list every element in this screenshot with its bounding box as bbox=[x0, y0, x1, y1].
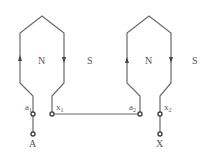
arrow-down-icon bbox=[169, 57, 173, 63]
terminal-x1[interactable] bbox=[50, 112, 54, 116]
pole-label-s: S bbox=[192, 55, 198, 66]
arrow-up-icon bbox=[18, 55, 22, 61]
terminal-a1[interactable] bbox=[31, 112, 35, 116]
winding-diagram: N S a1 x1 A N S a2 x2 X bbox=[0, 0, 201, 162]
terminal-label-X: X bbox=[156, 138, 164, 149]
coil-2: N S a2 x2 X bbox=[125, 16, 198, 149]
pole-label-s: S bbox=[87, 55, 93, 66]
arrow-down-icon bbox=[62, 57, 66, 63]
terminal-label-x2: x2 bbox=[164, 102, 172, 113]
terminal-label-A: A bbox=[29, 138, 37, 149]
terminal-label-a2: a2 bbox=[129, 102, 136, 113]
terminal-label-x1: x1 bbox=[56, 102, 64, 113]
pole-label-n: N bbox=[145, 55, 152, 66]
coil-1: N S a1 x1 A bbox=[18, 16, 93, 149]
terminal-label-a1: a1 bbox=[25, 102, 32, 113]
terminal-A[interactable] bbox=[31, 132, 35, 136]
terminal-a2[interactable] bbox=[138, 112, 142, 116]
terminal-X[interactable] bbox=[158, 132, 162, 136]
pole-label-n: N bbox=[38, 55, 45, 66]
arrow-up-icon bbox=[125, 57, 129, 63]
terminal-x2[interactable] bbox=[158, 112, 162, 116]
